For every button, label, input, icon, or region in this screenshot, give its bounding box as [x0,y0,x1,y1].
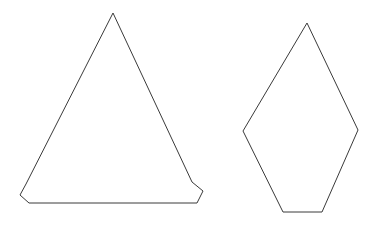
shape-canvas [0,0,380,225]
shapes-svg [0,0,380,225]
